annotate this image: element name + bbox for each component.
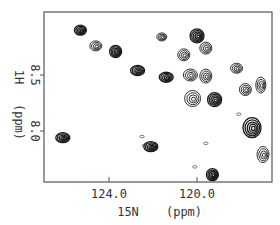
peak-contour — [185, 91, 201, 107]
peak-contour — [239, 84, 251, 96]
peak-contour — [90, 41, 102, 51]
peak-contour — [131, 66, 145, 76]
nmr-spectrum-plot: 124.0 120.0 15N (ppm) 8.5 8.0 1H (ppm) — [0, 0, 280, 225]
x-tick-label-120: 120.0 — [179, 187, 215, 201]
peak-contour — [200, 42, 212, 54]
minor-peak-contour — [193, 166, 197, 169]
peak-contour — [208, 93, 222, 107]
peak-contour — [74, 25, 86, 35]
peak-contour — [183, 69, 197, 81]
x-axis-title-unit: (ppm) — [166, 205, 202, 219]
y-tick-label-8-5: 8.5 — [28, 64, 42, 86]
y-axis-title-unit: (ppm) — [12, 104, 26, 140]
peak-contour — [231, 63, 243, 73]
peak-contour — [157, 33, 167, 41]
y-tick-label-8-0: 8.0 — [28, 120, 42, 142]
minor-peak-contour — [204, 142, 208, 145]
peak-contour — [159, 72, 173, 82]
peak-contour — [178, 49, 190, 61]
peak-contour — [243, 118, 261, 138]
x-tick-label-124: 124.0 — [91, 187, 127, 201]
peak-contour — [200, 69, 212, 83]
peak-contour — [206, 169, 218, 181]
peak-contour — [110, 45, 122, 57]
minor-peak-contour — [140, 135, 144, 138]
minor-peak-contour — [237, 113, 241, 116]
y-axis-title-nucleus: 1H — [12, 70, 26, 84]
peak-contour — [56, 133, 70, 143]
peak-contour — [190, 29, 204, 43]
x-axis-title-nucleus: 15N — [117, 205, 139, 219]
peak-contours — [56, 25, 269, 180]
peak-contour — [256, 77, 266, 93]
peak-contour — [257, 147, 269, 163]
